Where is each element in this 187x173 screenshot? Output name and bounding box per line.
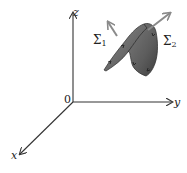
origin-label: 0 [64, 94, 71, 105]
diagram-canvas [0, 0, 187, 173]
sigma-2-subscript: 2 [171, 40, 176, 49]
y-axis-label: y [174, 97, 180, 108]
normal-vector-sigma-2 [148, 13, 170, 30]
sigma-2-label: Σ2 [163, 35, 177, 49]
x-axis [20, 102, 73, 154]
sigma-1-subscript: 1 [101, 39, 106, 48]
z-axis-label: z [73, 7, 79, 18]
normal-vector-sigma-1 [108, 22, 117, 36]
x-axis-label: x [11, 150, 17, 161]
sigma-1-label: Σ1 [93, 34, 107, 48]
surface-integral-diagram: z y x 0 Σ1 Σ2 [0, 0, 187, 173]
